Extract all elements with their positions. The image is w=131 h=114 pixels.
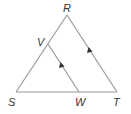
label-t: T [113, 96, 121, 108]
segment-vw [48, 44, 79, 92]
label-v: V [37, 36, 46, 48]
label-s: S [8, 96, 16, 108]
triangle-diagram: R V S W T [0, 0, 131, 114]
segment-rt [67, 15, 117, 92]
segment-rs [16, 15, 67, 92]
label-w: W [75, 96, 87, 108]
label-r: R [63, 2, 71, 14]
